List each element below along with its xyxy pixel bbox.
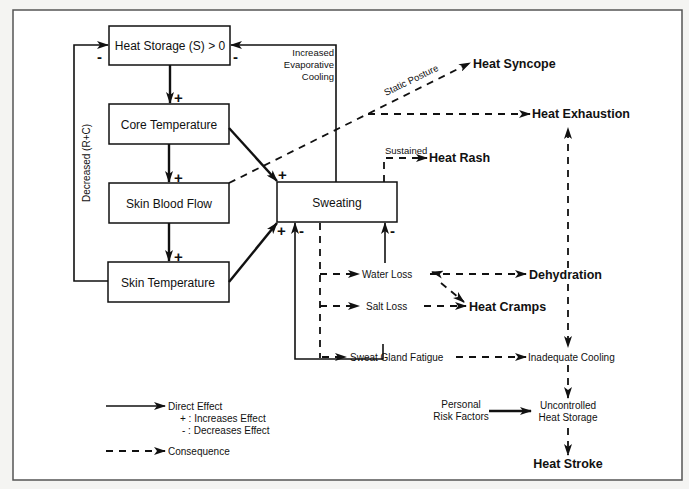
node-sweat-gland-fatigue: Sweat Gland Fatigue [350, 352, 444, 363]
label-decreased-rc: Decreased (R+C) [81, 124, 92, 202]
label-sustained: Sustained [385, 145, 427, 156]
node-inadequate-cooling: Inadequate Cooling [528, 352, 615, 363]
node-sweating-label: Sweating [312, 196, 361, 210]
sign-plus-sweating-bottom: + [277, 222, 286, 239]
sign-minus-storage-left: - [97, 48, 102, 65]
node-water-loss: Water Loss [362, 269, 412, 280]
label-cooling: Cooling [302, 71, 334, 82]
node-core-temperature: Core Temperature [109, 104, 229, 144]
node-heat-storage-label: Heat Storage (S) > 0 [115, 39, 226, 53]
sign-minus-sweating-fatigue: - [299, 222, 304, 239]
node-uncontrolled-line2: Heat Storage [539, 412, 598, 423]
node-heat-syncope: Heat Syncope [473, 57, 556, 71]
node-skin-blood-flow-label: Skin Blood Flow [126, 197, 212, 211]
node-skin-temperature-label: Skin Temperature [121, 276, 215, 290]
node-skin-temperature: Skin Temperature [108, 262, 229, 302]
sign-plus-core: + [174, 89, 183, 106]
heat-illness-diagram: Heat Storage (S) > 0 Core Temperature Sk… [0, 0, 689, 489]
sign-plus-sweating-top: + [278, 166, 287, 183]
sign-minus-storage-right: - [233, 48, 238, 65]
node-heat-exhaustion: Heat Exhaustion [532, 107, 630, 121]
node-heat-stroke: Heat Stroke [533, 457, 603, 471]
sign-plus-skinblood: + [174, 169, 183, 186]
node-sweating: Sweating [277, 182, 397, 222]
legend-increases: + : Increases Effect [180, 413, 266, 424]
label-evaporative: Evaporative [284, 59, 334, 70]
node-personal-line1: Personal [441, 399, 480, 410]
node-heat-cramps: Heat Cramps [469, 300, 546, 314]
node-core-temperature-label: Core Temperature [121, 118, 218, 132]
node-heat-rash: Heat Rash [429, 151, 490, 165]
sign-minus-sweating-water: - [390, 222, 395, 239]
label-increased: Increased [292, 47, 334, 58]
node-uncontrolled-line1: Uncontrolled [540, 400, 596, 411]
legend-consequence: Consequence [168, 446, 230, 457]
node-personal-line2: Risk Factors [433, 411, 489, 422]
node-skin-blood-flow: Skin Blood Flow [109, 183, 229, 223]
node-heat-storage: Heat Storage (S) > 0 [109, 26, 230, 65]
node-salt-loss: Salt Loss [366, 301, 407, 312]
node-dehydration: Dehydration [529, 268, 602, 282]
legend-direct-effect: Direct Effect [168, 401, 222, 412]
sign-plus-skintemp: + [174, 248, 183, 265]
legend-decreases: - : Decreases Effect [182, 425, 270, 436]
